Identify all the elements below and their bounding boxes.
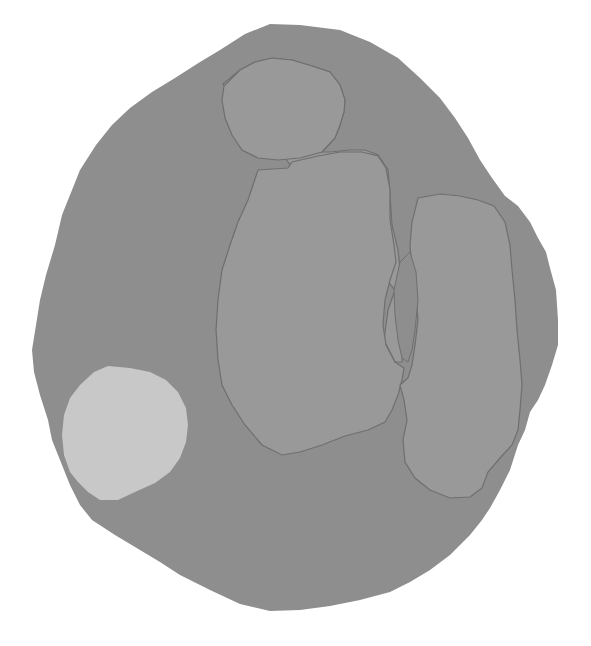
segmentation-figure [0,0,591,646]
right-region [400,194,522,498]
segmentation-canvas [0,0,591,646]
head-circle [222,58,345,160]
